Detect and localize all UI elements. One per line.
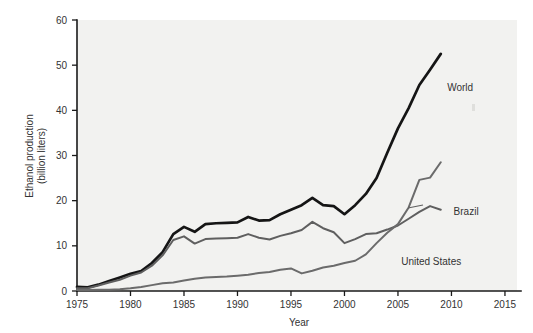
x-tick-label: 1995 (280, 299, 303, 310)
series-label-world: World (447, 82, 473, 93)
y-axis-tick-group: 0102030405060 (56, 15, 77, 297)
plot-area-background (77, 20, 517, 291)
y-tick-label: 0 (61, 286, 67, 297)
x-tick-label: 1980 (119, 299, 142, 310)
y-tick-label: 10 (56, 240, 68, 251)
svg-text:Ethanol production: Ethanol production (24, 114, 35, 197)
y-tick-label: 30 (56, 150, 68, 161)
ethanol-production-line-chart: 0102030405060 19751980198519901995200020… (0, 0, 533, 333)
scan-artifact-speck (472, 104, 475, 111)
x-axis-tick-group: 197519801985199019952000200520102015 (66, 291, 517, 310)
svg-text:(billion liters): (billion liters) (36, 128, 47, 184)
x-tick-label: 1975 (66, 299, 89, 310)
x-tick-label: 2010 (440, 299, 463, 310)
x-tick-label: 2000 (333, 299, 356, 310)
x-tick-label: 1990 (226, 299, 249, 310)
x-axis-title: Year (289, 317, 310, 328)
chart-figure: 0102030405060 19751980198519901995200020… (0, 0, 533, 333)
x-tick-label: 1985 (173, 299, 196, 310)
x-tick-label: 2005 (387, 299, 410, 310)
y-tick-label: 60 (56, 15, 68, 26)
y-axis-title: Ethanol production (billion liters) (24, 114, 47, 197)
y-tick-label: 50 (56, 60, 68, 71)
series-label-brazil: Brazil (454, 206, 479, 217)
series-label-united-states: United States (401, 256, 461, 267)
y-tick-label: 20 (56, 195, 68, 206)
x-tick-label: 2015 (494, 299, 517, 310)
y-tick-label: 40 (56, 105, 68, 116)
